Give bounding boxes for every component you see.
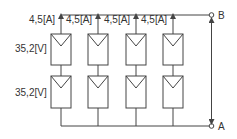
- pv-panel-icon: [163, 34, 183, 65]
- pv-panel-icon: [51, 34, 71, 65]
- lower-voltage-label: 35,2[V]: [15, 87, 47, 98]
- pv-panel-icon: [126, 76, 146, 108]
- pv-string-1: 4,5[A]: [29, 14, 71, 126]
- pv-panel-icon: [126, 34, 146, 65]
- pv-panel-icon: [88, 76, 108, 108]
- upper-voltage-label: 35,2[V]: [15, 43, 47, 54]
- terminal-a-label: A: [218, 121, 225, 132]
- string-current-label: 4,5[A]: [104, 14, 130, 25]
- terminal-b-icon: [209, 13, 214, 18]
- pv-string-2: 4,5[A]: [66, 14, 108, 126]
- pv-string-3: 4,5[A]: [104, 14, 146, 126]
- pv-panel-icon: [88, 34, 108, 65]
- pv-panel-icon: [51, 76, 71, 108]
- terminal-a-icon: [209, 124, 214, 129]
- string-current-label: 4,5[A]: [66, 14, 92, 25]
- pv-panel-icon: [163, 76, 183, 108]
- string-current-label: 4,5[A]: [141, 14, 167, 25]
- pv-array-diagram: B A 35,2[V] 35,2[V] 4,5[A] 4,5[A] 4,: [0, 0, 237, 139]
- terminal-b-label: B: [218, 10, 225, 21]
- pv-string-4: 4,5[A]: [141, 14, 183, 126]
- string-current-label: 4,5[A]: [29, 14, 55, 25]
